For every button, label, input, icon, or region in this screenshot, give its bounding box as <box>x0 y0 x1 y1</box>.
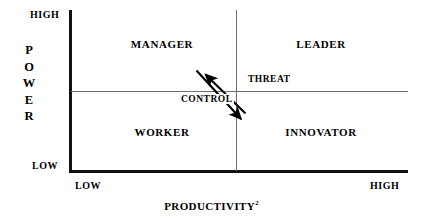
arrow-label-threat: THREAT <box>247 74 291 84</box>
quadrant-label-worker: WORKER <box>107 126 217 138</box>
quadrant-label-leader: LEADER <box>256 38 386 50</box>
quadrant-label-manager: MANAGER <box>107 38 217 50</box>
transition-arrows-group <box>0 0 423 223</box>
x-axis-title-footnote-marker: 2 <box>255 199 259 206</box>
vertical-gridline <box>236 10 237 171</box>
x-axis-high-tick-label: HIGH <box>370 180 399 191</box>
quadrant-label-innovator: INNOVATOR <box>256 126 386 138</box>
y-axis-title-letter-w: W <box>18 75 40 92</box>
y-axis-title-letter-r: R <box>18 108 40 125</box>
y-axis-high-tick-label: HIGH <box>30 9 59 20</box>
arrow-label-control: CONTROL <box>180 94 234 104</box>
y-axis-title-letter-p: P <box>18 42 40 59</box>
y-axis-low-tick-label: LOW <box>32 160 58 171</box>
horizontal-gridline <box>71 91 408 92</box>
power-productivity-matrix-figure: P O W E R HIGH LOW LOW HIGH MANAGER LEAD… <box>0 0 423 223</box>
x-axis-low-tick-label: LOW <box>75 180 101 191</box>
y-axis-title: P O W E R <box>18 42 40 125</box>
x-axis-title-text: PRODUCTIVITY <box>164 200 255 212</box>
y-axis-title-letter-e: E <box>18 92 40 109</box>
x-axis-title: PRODUCTIVITY2 <box>0 200 423 212</box>
y-axis-title-letter-o: O <box>18 59 40 76</box>
x-axis-line <box>69 170 408 173</box>
